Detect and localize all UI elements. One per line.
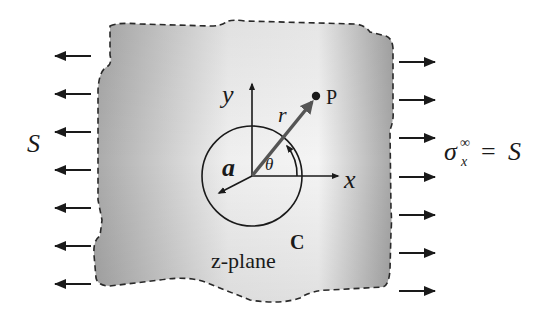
sigma-superscript: ∞ <box>460 135 470 150</box>
x-axis-label: x <box>343 165 356 194</box>
sigma-subscript: x <box>460 154 468 169</box>
right-load-arrows <box>399 62 435 291</box>
left-load-label: S <box>27 129 40 158</box>
point-p-dot <box>312 92 320 100</box>
left-load-arrows <box>55 56 91 284</box>
angle-theta-label: θ <box>265 155 273 174</box>
point-p-label: P <box>326 86 337 108</box>
y-axis-label: y <box>219 80 234 109</box>
hole-radius-label: a <box>222 153 235 182</box>
right-load-label: σ x ∞ = S <box>444 135 521 169</box>
z-plane-label: z-plane <box>211 248 276 273</box>
sigma-value: S <box>508 137 521 166</box>
sigma-symbol: σ <box>444 137 458 166</box>
radius-r-label: r <box>278 102 287 127</box>
z-plane-diagram: S σ x ∞ = S y x P r a θ C z-plane <box>0 0 546 328</box>
equals-sign: = <box>481 137 496 166</box>
contour-c-label: C <box>290 231 304 253</box>
